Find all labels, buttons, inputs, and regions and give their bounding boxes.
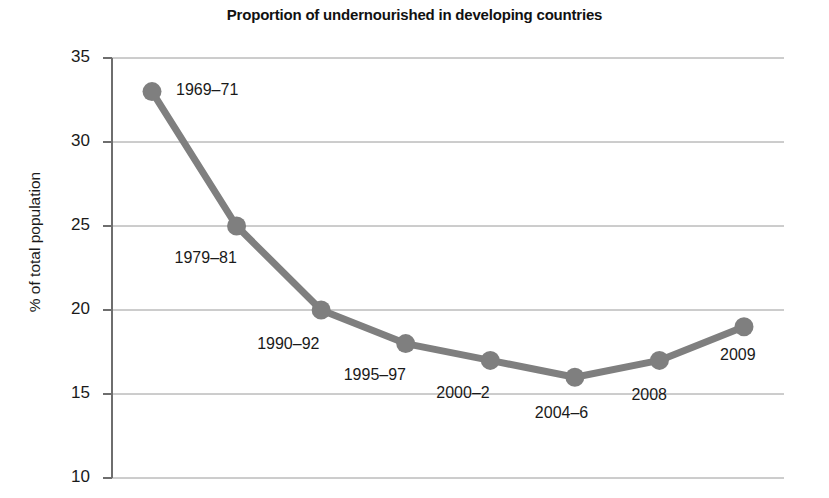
data-point-marker: [565, 368, 584, 387]
data-point-label: 2009: [720, 346, 756, 364]
data-point-markers: [143, 82, 754, 387]
chart-container: Proportion of undernourished in developi…: [0, 0, 829, 498]
data-point-label: 1995–97: [344, 366, 406, 384]
plot-area: [0, 0, 829, 498]
data-point-marker: [396, 334, 415, 353]
data-point-marker: [481, 351, 500, 370]
data-point-label: 2008: [631, 386, 667, 404]
data-point-label: 2004–6: [535, 404, 588, 422]
data-point-label: 1990–92: [257, 335, 319, 353]
data-point-label: 1969–71: [176, 81, 238, 99]
gridlines: [103, 58, 784, 478]
data-point-marker: [143, 82, 162, 101]
data-point-label: 1979–81: [175, 249, 237, 267]
data-point-marker: [735, 317, 754, 336]
data-point-marker: [650, 351, 669, 370]
data-point-label: 2000–2: [436, 384, 489, 402]
data-point-marker: [312, 301, 331, 320]
data-point-marker: [227, 217, 246, 236]
